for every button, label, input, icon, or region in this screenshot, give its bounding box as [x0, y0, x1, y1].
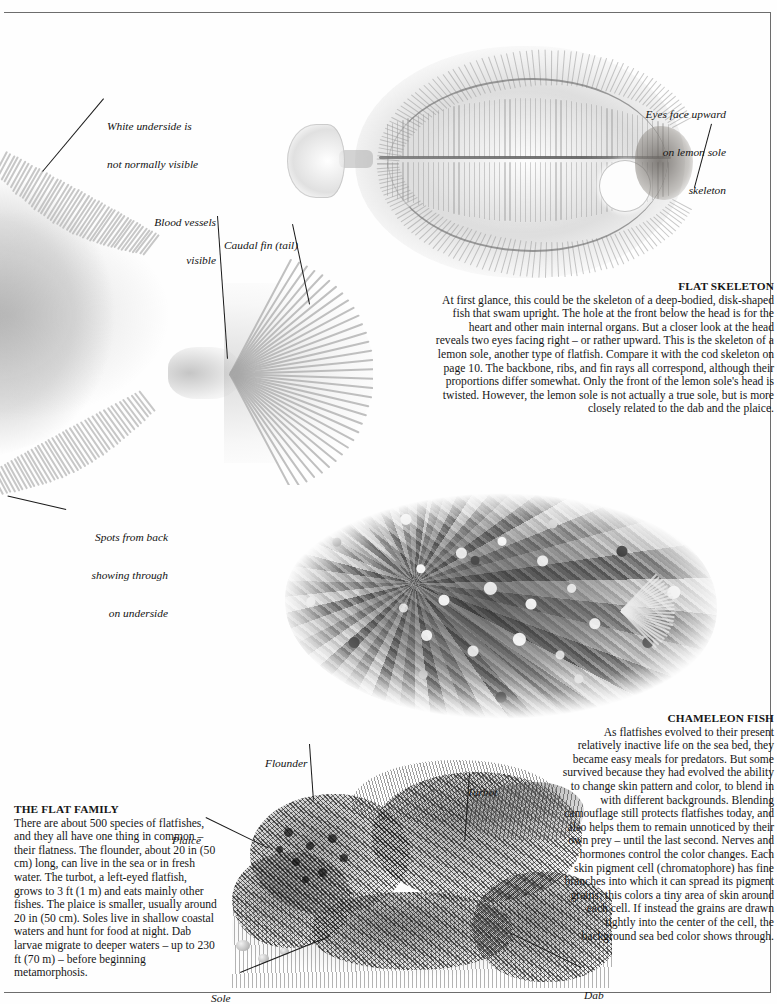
skeleton-fin-ray [581, 54, 590, 87]
flat-skeleton-heading: FLAT SKELETON [434, 280, 774, 294]
callout-spots-line3: on underside [68, 607, 168, 620]
chameleon-fish-heading: CHAMELEON FISH [560, 712, 774, 726]
callout-eyes-line3: skeleton [610, 184, 726, 197]
callout-blood-vessels: Blood vessels visible [120, 190, 216, 292]
callout-white-underside-line2: not normally visible [107, 158, 198, 171]
chameleon-fish-text-block: CHAMELEON FISH As flatfishes evolved to … [560, 712, 774, 943]
callout-plaice-label: Plaice [172, 834, 201, 847]
callout-dab: Dab [584, 963, 604, 1004]
skeleton-fin-ray [596, 238, 608, 270]
callout-plaice: Plaice [172, 808, 201, 872]
callout-flounder: Flounder [265, 731, 307, 795]
engraved-plaice [232, 852, 352, 948]
flat-skeleton-text-block: FLAT SKELETON At first glance, this coul… [434, 280, 774, 416]
engraved-flounder-spot [340, 854, 348, 862]
callout-white-underside: White underside is not normally visible [107, 94, 198, 196]
callout-turbot-label: Turbot [467, 786, 497, 799]
callout-blood-vessels-line1: Blood vessels [120, 216, 216, 229]
callout-dab-label: Dab [584, 989, 604, 1002]
callout-white-underside-line1: White underside is [107, 120, 198, 133]
callout-eyes-line1: Eyes face upward [610, 108, 726, 121]
engraved-flounder-spot [306, 842, 314, 850]
bottom-rule [4, 992, 770, 993]
engraved-flounder-spot [328, 834, 337, 843]
callout-blood-vessels-line2: visible [120, 254, 216, 267]
skeleton-tail-fan [287, 124, 345, 198]
callout-sole-label: Sole [211, 992, 231, 1004]
callout-sole: Sole [211, 966, 231, 1004]
callout-eyes-line2: on lemon sole [610, 146, 726, 159]
callout-caudal-fin-line1: Caudal fin (tail) [224, 239, 298, 252]
engraved-flounder-spot [318, 868, 327, 877]
callout-eyes-face-upward: Eyes face upward on lemon sole skeleton [610, 82, 726, 223]
callout-caudal-fin: Caudal fin (tail) [224, 213, 298, 277]
engraved-flounder-spot [292, 858, 300, 866]
page-root: FLAT SKELETON At first glance, this coul… [0, 0, 777, 1004]
callout-spots-line2: showing through [68, 569, 168, 582]
callout-spots-from-back: Spots from back showing through on under… [68, 505, 168, 646]
callout-turbot: Turbot [467, 760, 497, 824]
callout-spots-line1: Spots from back [68, 531, 168, 544]
top-rule [4, 12, 770, 13]
engraved-flounder-spot [276, 846, 283, 853]
chameleon-fish-body: As flatfishes evolved to their present r… [560, 726, 774, 944]
engraved-flounder-spot [284, 828, 293, 837]
engraved-flounder-spot [302, 876, 309, 883]
figure-camouflaged-plaice [285, 492, 717, 720]
callout-flounder-label: Flounder [265, 757, 307, 770]
camouflaged-fish-body [357, 510, 647, 706]
flat-skeleton-body: At first glance, this could be the skele… [434, 294, 774, 416]
